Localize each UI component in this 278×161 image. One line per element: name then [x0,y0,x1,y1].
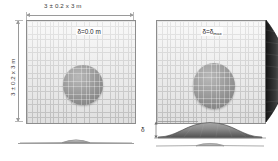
side-profile-flat-svg [18,130,134,150]
top-dimension-tick-left [26,12,27,20]
side-dimension-tick-top [15,20,23,21]
bump-mesh-overlay-deformed [193,63,235,109]
bump-mesh-overlay [63,65,103,105]
membrane-bump [63,65,103,105]
edge-elevation-svg [265,20,278,122]
state-label-delta-max-subscript: max [213,31,221,36]
side-dimension-tick-bottom [15,121,23,122]
side-profile-bulged [150,116,270,150]
state-label-delta-max-text: δ=δ [203,28,214,35]
mesh-plate [26,20,136,124]
state-label-delta-max: δ=δmax [201,27,223,36]
profile-baseline [18,143,134,144]
top-dimension-tick-right [133,12,134,20]
edge-elevation-view [265,20,278,122]
panel-delta-zero: 3 ± 0.2 x 3 m 3 ± 0.2 x 3 m δ=0.0 m [0,0,139,161]
top-dimension-label: 3 ± 0.2 x 3 m [44,2,82,9]
delta-dimension-symbol: δ [141,126,145,133]
side-dimension-line [18,20,19,122]
side-profile-bulged-svg [150,116,270,150]
state-label-delta-zero: δ=0.0 m [76,27,102,35]
side-dimension-label: 3 ± 0.2 x 3 m [9,58,16,96]
membrane-bump-deformed [193,63,235,109]
panel-delta-max: δ=δmax [139,0,278,161]
side-profile-flat [18,130,134,150]
membrane-deflection-figure: 3 ± 0.2 x 3 m 3 ± 0.2 x 3 m δ=0.0 m [0,0,278,161]
top-dimension-line [26,15,134,16]
